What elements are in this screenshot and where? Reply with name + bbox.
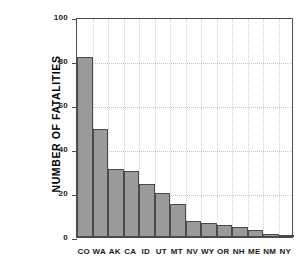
- plot-area: [76, 18, 293, 238]
- x-axis-tick-label-nv: NV: [185, 247, 201, 256]
- x-axis-tick-label-ny: NY: [278, 247, 294, 256]
- bar-co: [77, 57, 93, 237]
- gridline-vertical: [279, 19, 280, 237]
- bar-nm: [263, 234, 279, 237]
- bar-wy: [201, 223, 217, 237]
- bar-me: [248, 230, 264, 237]
- bar-or: [217, 225, 233, 237]
- x-axis-tick-label-nh: NH: [231, 247, 247, 256]
- gridline-horizontal: [77, 151, 292, 152]
- y-axis-tick-label: 100: [42, 13, 68, 22]
- bar-ny: [279, 235, 295, 237]
- bar-ak: [108, 169, 124, 237]
- gridline-vertical: [248, 19, 249, 237]
- x-axis-tick-label-ca: CA: [123, 247, 139, 256]
- bar-ut: [155, 193, 171, 237]
- x-axis-tick-label-ut: UT: [154, 247, 170, 256]
- y-axis-tick-label: 40: [42, 145, 68, 154]
- x-axis-tick-label-wy: WY: [200, 247, 216, 256]
- bar-nv: [186, 221, 202, 238]
- gridline-vertical: [201, 19, 202, 237]
- gridline-horizontal: [77, 63, 292, 64]
- y-axis-tick: [72, 19, 77, 20]
- plot-inner: [77, 19, 292, 237]
- bar-id: [139, 184, 155, 237]
- x-axis-tick-label-mt: MT: [169, 247, 185, 256]
- bar-wa: [93, 129, 109, 237]
- gridline-vertical: [263, 19, 264, 237]
- y-axis-tick-label: 80: [42, 57, 68, 66]
- x-axis-tick-label-wa: WA: [92, 247, 108, 256]
- bar-mt: [170, 204, 186, 237]
- x-axis-tick-label-co: CO: [76, 247, 92, 256]
- y-axis-tick: [72, 239, 77, 240]
- gridline-vertical: [186, 19, 187, 237]
- gridline-horizontal: [77, 107, 292, 108]
- gridline-vertical: [232, 19, 233, 237]
- y-axis-tick-label: 0: [42, 233, 68, 242]
- bar-ca: [124, 171, 140, 237]
- y-axis-tick-label: 20: [42, 189, 68, 198]
- x-axis-tick-label-id: ID: [138, 247, 154, 256]
- x-axis-tick-label-nm: NM: [262, 247, 278, 256]
- bar-chart-figure: NUMBER OF FATALITIES 020406080100 COWAAK…: [0, 0, 306, 266]
- bar-nh: [232, 227, 248, 237]
- y-axis-tick-label: 60: [42, 101, 68, 110]
- gridline-vertical: [217, 19, 218, 237]
- x-axis-tick-label-ak: AK: [107, 247, 123, 256]
- x-axis-tick-label-or: OR: [216, 247, 232, 256]
- x-axis-tick-label-me: ME: [247, 247, 263, 256]
